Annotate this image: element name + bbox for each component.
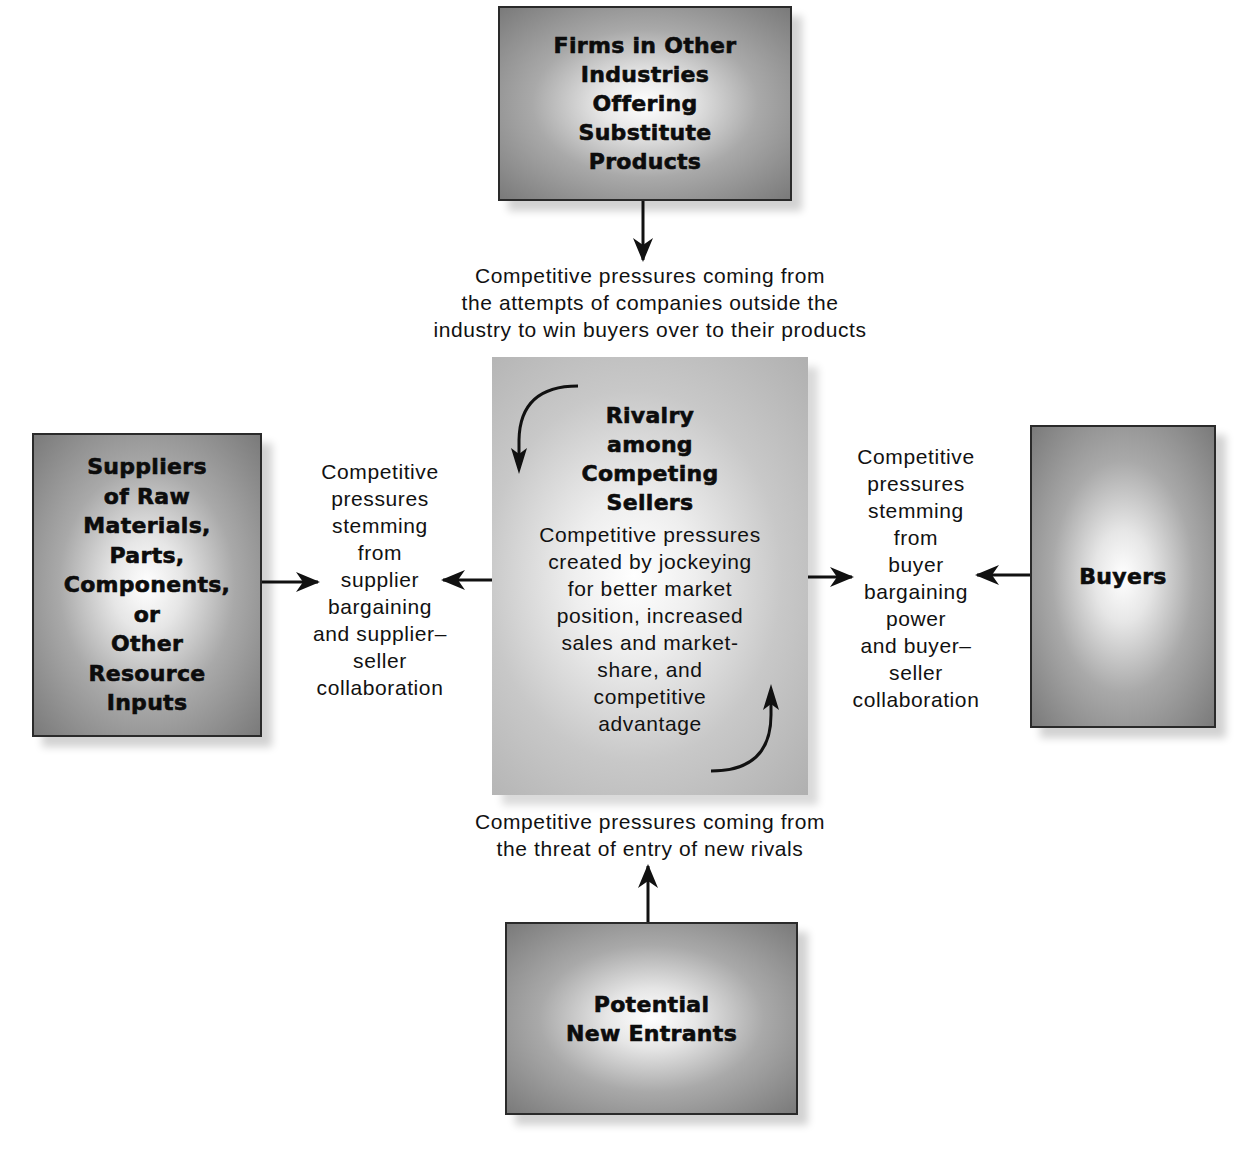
rivalry-description: Competitive pressures created by jockeyi… — [539, 521, 761, 737]
label-line: Competitive — [826, 443, 1006, 470]
label-line: collaboration — [826, 686, 1006, 713]
label-line: Competitive pressures coming from — [400, 808, 900, 835]
substitutes-line: Offering — [554, 89, 737, 118]
label-line: stemming — [826, 497, 1006, 524]
rivalry-title-line: among — [581, 430, 718, 459]
suppliers-line: Parts, — [64, 541, 231, 571]
label-line: from — [826, 524, 1006, 551]
suppliers-line: Other — [64, 629, 231, 659]
label-line: power — [826, 605, 1006, 632]
label-line: and buyer– — [826, 632, 1006, 659]
label-line: buyer — [826, 551, 1006, 578]
rivalry-desc-line: share, and — [539, 656, 761, 683]
substitutes-line: Substitute — [554, 118, 737, 147]
label-line: Competitive pressures coming from — [360, 262, 940, 289]
rivalry-desc-line: competitive — [539, 683, 761, 710]
label-line: stemming — [290, 512, 470, 539]
label-line: and supplier– — [290, 620, 470, 647]
label-line: bargaining — [826, 578, 1006, 605]
rivalry-desc-line: sales and market- — [539, 629, 761, 656]
label-line: collaboration — [290, 674, 470, 701]
label-line: from — [290, 539, 470, 566]
substitutes-pressure-label: Competitive pressures coming from the at… — [360, 262, 940, 343]
rivalry-title-line: Sellers — [581, 488, 718, 517]
suppliers-box: Suppliers of Raw Materials, Parts, Compo… — [32, 433, 262, 737]
rivalry-box: Rivalry among Competing Sellers Competit… — [492, 357, 808, 795]
substitutes-line: Firms in Other — [554, 31, 737, 60]
new-entrants-title: Potential New Entrants — [566, 990, 737, 1048]
label-line: seller — [290, 647, 470, 674]
label-line: industry to win buyers over to their pro… — [360, 316, 940, 343]
suppliers-line: Materials, — [64, 511, 231, 541]
suppliers-line: Inputs — [64, 688, 231, 718]
substitutes-title: Firms in Other Industries Offering Subst… — [554, 31, 737, 176]
label-line: Competitive — [290, 458, 470, 485]
new-entrants-box: Potential New Entrants — [505, 922, 798, 1115]
suppliers-line: Components, — [64, 570, 231, 600]
rivalry-title-line: Rivalry — [581, 401, 718, 430]
suppliers-line: of Raw — [64, 482, 231, 512]
label-line: the attempts of companies outside the — [360, 289, 940, 316]
rivalry-title: Rivalry among Competing Sellers — [581, 401, 718, 517]
label-line: the threat of entry of new rivals — [400, 835, 900, 862]
suppliers-pressure-label: Competitive pressures stemming from supp… — [290, 458, 470, 701]
label-line: pressures — [826, 470, 1006, 497]
buyers-title: Buyers — [1079, 562, 1166, 591]
suppliers-line: or — [64, 600, 231, 630]
new-entrants-line: Potential — [566, 990, 737, 1019]
label-line: seller — [826, 659, 1006, 686]
substitutes-line: Products — [554, 147, 737, 176]
rivalry-desc-line: Competitive pressures — [539, 521, 761, 548]
rivalry-title-line: Competing — [581, 459, 718, 488]
suppliers-title: Suppliers of Raw Materials, Parts, Compo… — [64, 452, 231, 718]
rivalry-desc-line: position, increased — [539, 602, 761, 629]
new-entrants-line: New Entrants — [566, 1019, 737, 1048]
rivalry-desc-line: created by jockeying — [539, 548, 761, 575]
substitutes-box: Firms in Other Industries Offering Subst… — [498, 6, 792, 201]
new-entrants-pressure-label: Competitive pressures coming from the th… — [400, 808, 900, 862]
suppliers-line: Resource — [64, 659, 231, 689]
rivalry-desc-line: for better market — [539, 575, 761, 602]
substitutes-line: Industries — [554, 60, 737, 89]
buyers-box: Buyers — [1030, 425, 1216, 728]
label-line: pressures — [290, 485, 470, 512]
rivalry-desc-line: advantage — [539, 710, 761, 737]
label-line: bargaining — [290, 593, 470, 620]
label-line: supplier — [290, 566, 470, 593]
buyers-pressure-label: Competitive pressures stemming from buye… — [826, 443, 1006, 713]
suppliers-line: Suppliers — [64, 452, 231, 482]
